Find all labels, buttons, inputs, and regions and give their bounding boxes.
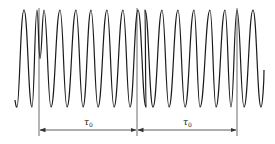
period-label-tau0-1: τ0 — [84, 118, 93, 128]
tau-subscript: 0 — [89, 121, 93, 128]
waveform-curve — [15, 10, 264, 107]
tau-subscript: 0 — [188, 121, 192, 128]
period-label-tau0-2: τ0 — [183, 118, 192, 128]
oscillation-waveform-diagram — [0, 0, 275, 144]
